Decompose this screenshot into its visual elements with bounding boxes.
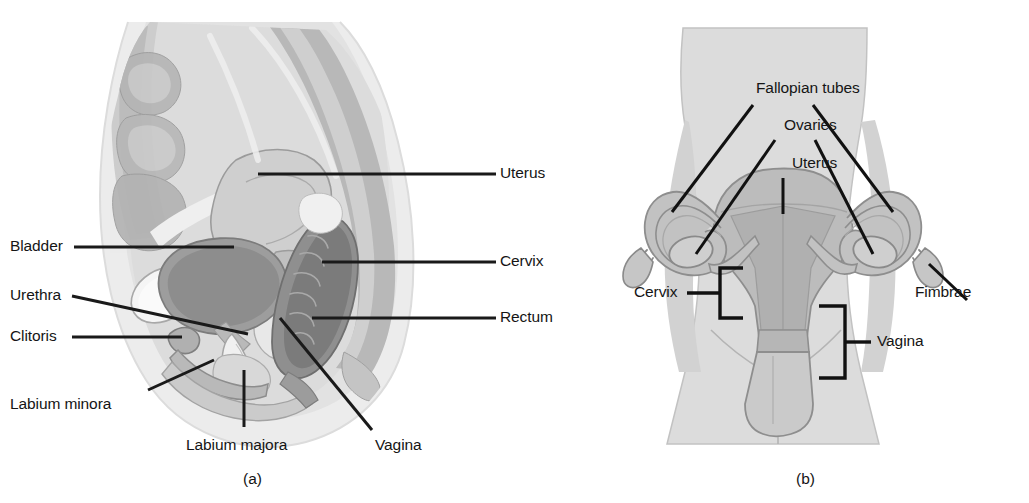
label-fimbrae-b: Fimbrae bbox=[915, 284, 971, 300]
panel-b-caption: (b) bbox=[796, 470, 815, 488]
vagina-b bbox=[745, 352, 813, 436]
label-fallopian-tubes-b: Fallopian tubes bbox=[756, 80, 860, 96]
label-labium-majora-a: Labium majora bbox=[186, 437, 287, 453]
fimbriae-right-body bbox=[913, 248, 943, 288]
panel-a-illustration bbox=[0, 0, 515, 503]
fimbriae-left-body bbox=[623, 248, 653, 288]
label-cervix-b: Cervix bbox=[634, 284, 677, 300]
label-ovaries-b: Ovaries bbox=[784, 117, 837, 133]
label-clitoris-a: Clitoris bbox=[10, 328, 57, 344]
label-urethra-a: Urethra bbox=[10, 287, 61, 303]
label-vagina-b: Vagina bbox=[877, 333, 924, 349]
label-labium-minora-a: Labium minora bbox=[10, 396, 111, 412]
label-bladder-a: Bladder bbox=[10, 238, 63, 254]
panel-a-sagittal-view: Uterus Cervix Rectum Bladder Urethra Cli… bbox=[0, 0, 515, 503]
figure-root: Uterus Cervix Rectum Bladder Urethra Cli… bbox=[0, 0, 1029, 503]
label-uterus-b: Uterus bbox=[792, 155, 837, 171]
label-vagina-a: Vagina bbox=[375, 437, 422, 453]
rectouterine-pouch bbox=[299, 193, 343, 233]
panel-b-illustration bbox=[515, 0, 1029, 503]
panel-a-caption: (a) bbox=[243, 470, 262, 488]
panel-b-anterior-view: Fallopian tubes Ovaries Uterus Cervix Fi… bbox=[515, 0, 1029, 503]
cervix-b bbox=[757, 330, 809, 352]
